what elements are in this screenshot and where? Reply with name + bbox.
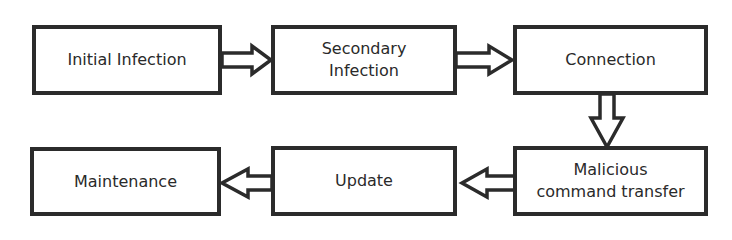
node-connection: Connection: [513, 25, 708, 95]
node-label: Malicious command transfer: [536, 159, 684, 203]
node-label: Maintenance: [74, 171, 177, 193]
arrow-left-icon: [222, 169, 272, 197]
node-label: Update: [335, 170, 393, 192]
node-update: Update: [271, 146, 457, 216]
node-secondary-infection: Secondary Infection: [271, 25, 457, 95]
arrow-right-icon: [222, 46, 271, 74]
node-label: Secondary Infection: [322, 38, 407, 82]
arrow-right-icon: [456, 46, 512, 74]
arrow-down-icon: [591, 94, 623, 147]
node-label: Initial Infection: [67, 49, 186, 71]
node-maintenance: Maintenance: [30, 147, 221, 216]
arrow-left-icon: [462, 169, 515, 197]
node-label: Connection: [565, 49, 656, 71]
node-initial-infection: Initial Infection: [32, 25, 222, 95]
node-malicious-command-transfer: Malicious command transfer: [513, 146, 708, 216]
